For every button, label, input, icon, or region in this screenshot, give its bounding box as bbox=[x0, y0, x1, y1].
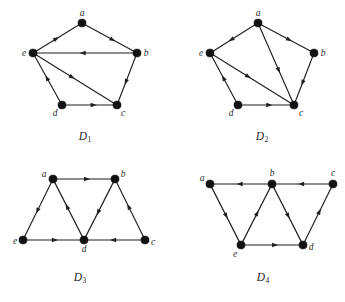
vertex-label-d: d bbox=[309, 242, 314, 252]
vertex-c bbox=[141, 236, 149, 244]
vertex-e bbox=[29, 49, 37, 57]
vertex-label-a: a bbox=[42, 169, 47, 179]
digraph-d4: abcdeD4 bbox=[200, 168, 337, 285]
arrowhead-c-to-b bbox=[127, 204, 132, 210]
digraph-figure-panel: abcdeD1abcdeD2abcdeD3abcdeD4 bbox=[0, 0, 345, 302]
vertex-label-c: c bbox=[151, 237, 156, 247]
vertex-label-a: a bbox=[256, 8, 261, 18]
arrowhead-e-to-a bbox=[53, 37, 59, 42]
digraph-d2: abcdeD2 bbox=[199, 8, 326, 144]
edge-c-to-b bbox=[117, 182, 144, 237]
arrowhead-a-to-e bbox=[223, 212, 228, 218]
digraph-d3: abcdeD3 bbox=[13, 169, 156, 285]
graph-caption-d2: D2 bbox=[255, 130, 269, 144]
graph-caption-subscript: 3 bbox=[83, 276, 87, 285]
arrowhead-e-to-d bbox=[52, 238, 58, 242]
arrowhead-b-to-a bbox=[237, 182, 243, 186]
vertex-label-e: e bbox=[22, 48, 26, 58]
arrowhead-b-to-d bbox=[285, 212, 290, 218]
arrowhead-b-to-d bbox=[97, 209, 102, 215]
arrowhead-c-to-d bbox=[110, 238, 116, 242]
vertex-label-c: c bbox=[299, 108, 304, 118]
arrowhead-b-to-c bbox=[125, 78, 129, 84]
vertex-label-b: b bbox=[270, 168, 275, 178]
arrowhead-e-to-c bbox=[245, 73, 251, 78]
vertex-b bbox=[133, 49, 141, 57]
vertex-label-c: c bbox=[331, 168, 336, 178]
arrowhead-a-to-c bbox=[276, 67, 280, 73]
arrowhead-a-to-b bbox=[109, 36, 115, 41]
edge-b-to-c bbox=[118, 56, 135, 101]
graph-caption-subscript: 4 bbox=[266, 276, 270, 285]
arrowhead-d-to-e bbox=[222, 75, 227, 81]
arrowhead-c-to-b bbox=[298, 182, 304, 186]
arrowhead-a-to-e bbox=[229, 36, 235, 41]
arrowhead-d-to-e bbox=[45, 75, 50, 81]
vertex-d bbox=[234, 101, 242, 109]
vertex-a bbox=[206, 180, 214, 188]
graph-caption-d4: D4 bbox=[256, 271, 270, 285]
vertex-c bbox=[113, 101, 121, 109]
graph-caption-subscript: 1 bbox=[88, 135, 92, 144]
arrowhead-e-to-d bbox=[272, 243, 278, 247]
vertex-a bbox=[254, 19, 262, 27]
vertex-c bbox=[329, 180, 337, 188]
arrowhead-d-to-c bbox=[266, 103, 272, 107]
arrowhead-d-to-c bbox=[316, 209, 321, 215]
vertex-a bbox=[49, 175, 57, 183]
arrowhead-e-to-c bbox=[68, 74, 74, 79]
vertex-b bbox=[310, 49, 318, 57]
vertex-label-e: e bbox=[13, 236, 17, 246]
arrowhead-b-to-c bbox=[301, 79, 305, 85]
edge-b-to-d bbox=[86, 182, 114, 237]
edge-d-to-c bbox=[305, 187, 332, 242]
vertex-c bbox=[290, 101, 298, 109]
vertex-b bbox=[268, 180, 276, 188]
vertex-label-b: b bbox=[121, 169, 126, 179]
vertex-label-c: c bbox=[121, 108, 126, 118]
arrowhead-b-to-e bbox=[80, 51, 86, 55]
vertex-e bbox=[237, 241, 245, 249]
vertex-label-d: d bbox=[53, 108, 58, 118]
arrowhead-d-to-a bbox=[66, 204, 71, 210]
vertex-d bbox=[299, 241, 307, 249]
edge-a-to-e bbox=[213, 25, 255, 51]
digraph-figure-svg: abcdeD1abcdeD2abcdeD3abcdeD4 bbox=[0, 0, 345, 302]
vertex-label-e: e bbox=[199, 48, 203, 58]
vertex-e bbox=[19, 236, 27, 244]
arrowhead-a-to-b bbox=[286, 36, 292, 41]
vertex-label-e: e bbox=[233, 249, 237, 259]
vertex-label-a: a bbox=[80, 8, 85, 18]
vertex-label-b: b bbox=[321, 48, 326, 58]
arrowhead-a-to-b bbox=[84, 177, 90, 181]
vertex-d bbox=[58, 101, 66, 109]
vertex-label-d: d bbox=[229, 108, 234, 118]
arrowhead-d-to-c bbox=[91, 103, 97, 107]
edge-d-to-a bbox=[55, 182, 83, 237]
vertex-a bbox=[78, 19, 86, 27]
vertex-label-a: a bbox=[200, 173, 205, 183]
arrowhead-e-to-b bbox=[254, 210, 259, 216]
graph-caption-d1: D1 bbox=[78, 130, 92, 144]
edge-b-to-c bbox=[295, 56, 312, 101]
digraph-d1: abcdeD1 bbox=[22, 8, 149, 144]
graph-caption-subscript: 2 bbox=[265, 135, 269, 144]
vertex-e bbox=[206, 49, 214, 57]
vertex-b bbox=[111, 175, 119, 183]
edge-a-to-b bbox=[85, 25, 134, 52]
arrowhead-a-to-e bbox=[36, 207, 41, 213]
vertex-d bbox=[80, 236, 88, 244]
graph-caption-d3: D3 bbox=[73, 271, 87, 285]
vertex-label-b: b bbox=[144, 48, 149, 58]
vertex-label-d: d bbox=[82, 244, 87, 254]
